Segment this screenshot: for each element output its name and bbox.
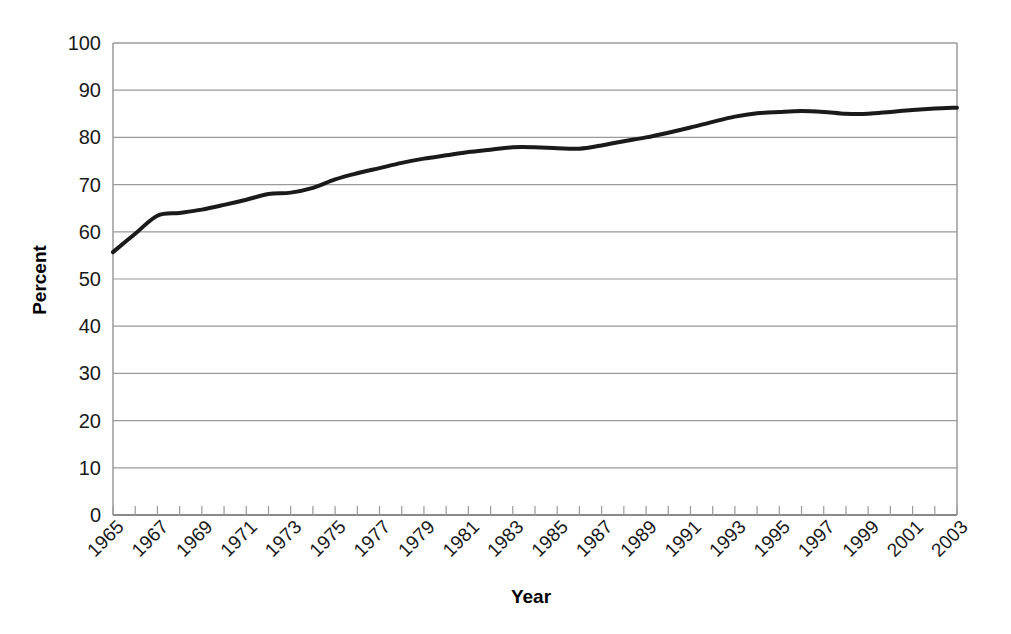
- y-tick-label: 30: [79, 362, 101, 384]
- x-tick-label: 1993: [705, 516, 750, 561]
- x-tick-label: 1999: [838, 516, 883, 561]
- x-tick-label: 1981: [438, 516, 483, 561]
- x-tick-label: 1983: [483, 516, 528, 561]
- chart-canvas: 0102030405060708090100 19651967196919711…: [0, 0, 1011, 634]
- x-tick-label: 1973: [261, 516, 306, 561]
- data-series-line: [113, 108, 957, 252]
- x-tick-label: 1967: [128, 516, 173, 561]
- y-tick-label: 90: [79, 79, 101, 101]
- x-tick-label: 1985: [527, 516, 572, 561]
- x-axis-tick-labels: 1965196719691971197319751977197919811983…: [83, 516, 972, 561]
- y-tick-label: 100: [68, 32, 101, 54]
- x-tick-label: 2001: [883, 516, 928, 561]
- y-tick-label: 50: [79, 268, 101, 290]
- x-tick-label: 1969: [172, 516, 217, 561]
- x-tick-label: 1987: [572, 516, 617, 561]
- y-tick-label: 10: [79, 457, 101, 479]
- y-axis-tick-labels: 0102030405060708090100: [68, 32, 101, 526]
- y-tick-label: 0: [90, 504, 101, 526]
- x-axis-title: Year: [511, 586, 552, 607]
- y-tick-label: 60: [79, 221, 101, 243]
- x-axis-ticks: [113, 506, 957, 515]
- x-tick-label: 1971: [216, 516, 261, 561]
- x-tick-label: 1991: [661, 516, 706, 561]
- x-tick-label: 2003: [927, 516, 972, 561]
- y-tick-label: 80: [79, 126, 101, 148]
- x-tick-label: 1997: [794, 516, 839, 561]
- line-chart: 0102030405060708090100 19651967196919711…: [0, 0, 1011, 634]
- y-axis-title: Percent: [29, 244, 50, 314]
- x-tick-label: 1975: [305, 516, 350, 561]
- x-tick-label: 1989: [616, 516, 661, 561]
- y-tick-label: 40: [79, 315, 101, 337]
- x-tick-label: 1995: [749, 516, 794, 561]
- x-tick-label: 1977: [350, 516, 395, 561]
- y-tick-label: 20: [79, 410, 101, 432]
- x-tick-label: 1979: [394, 516, 439, 561]
- y-tick-label: 70: [79, 174, 101, 196]
